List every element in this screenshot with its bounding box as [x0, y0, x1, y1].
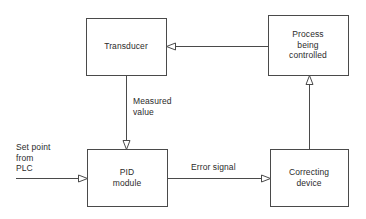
arrowhead-into-transducer — [167, 43, 176, 50]
edge-label-set-point-from-plc: Set point from PLC — [16, 142, 86, 174]
arrowhead-into-process-bottom — [306, 76, 313, 85]
node-label-transducer: Transducer — [86, 41, 166, 52]
node-label-correcting-device: Correcting device — [270, 167, 348, 188]
node-label-process-being-controlled: Process being controlled — [268, 29, 348, 61]
edge-label-measured-value: Measured value — [133, 96, 203, 117]
pid-control-loop-diagram: Transducer Process being controlled PID … — [0, 0, 366, 219]
node-label-pid-module: PID module — [87, 167, 167, 188]
arrowhead-into-pid-top — [123, 141, 130, 150]
edge-label-error-signal: Error signal — [191, 162, 271, 173]
